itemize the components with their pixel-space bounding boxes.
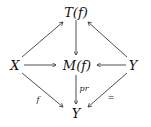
- label-pr: pr: [80, 84, 89, 93]
- node-tf: T(f): [64, 5, 88, 20]
- node-x: X: [10, 58, 19, 73]
- node-mf: M(f): [63, 58, 91, 73]
- label-equals: =: [108, 93, 115, 102]
- arrow-y-to-y: [88, 73, 127, 107]
- node-y-bottom: Y: [72, 106, 81, 121]
- arrow-y-to-tf: [88, 22, 127, 57]
- arrow-x-to-tf: [22, 22, 63, 57]
- label-f: f: [37, 95, 40, 104]
- arrow-x-to-y: [22, 73, 63, 107]
- node-y-right: Y: [129, 58, 138, 73]
